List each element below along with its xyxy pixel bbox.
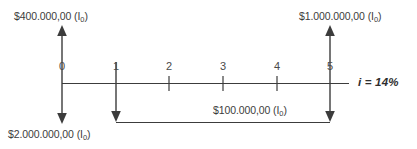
arrowhead-up-period-5 — [325, 25, 335, 36]
arrowhead-up-period-0 — [57, 25, 67, 36]
series-label-period-1-to-5: $100.000,00 (I0) — [213, 104, 287, 116]
cash-flow-diagram: 0 1 2 3 4 5 $400.000,00 (I0) $1.000.000,… — [0, 0, 417, 149]
inflow-label-period-5-amount: $1.000.000,00 — [299, 10, 365, 22]
arrowhead-down-period-0 — [57, 113, 67, 124]
inflow-label-period-5-subscript: 0 — [374, 15, 378, 24]
series-label-period-1-to-5-subscript: 0 — [279, 109, 283, 118]
outflow-label-period-0-subscript: 0 — [83, 133, 87, 142]
series-label-period-1-to-5-amount: $100.000,00 — [213, 104, 270, 116]
period-label-1: 1 — [113, 60, 119, 72]
arrowhead-down-period-1 — [111, 111, 121, 122]
arrowhead-down-period-5 — [325, 111, 335, 122]
flow-arrow-period-0 — [57, 25, 67, 124]
period-label-2: 2 — [166, 60, 172, 72]
inflow-label-period-0-subscript: 0 — [80, 15, 84, 24]
period-label-4: 4 — [274, 60, 280, 72]
inflow-label-period-5: $1.000.000,00 (I0) — [299, 10, 381, 22]
outflow-label-period-0-amount: $2.000.000,00 — [8, 128, 74, 140]
outflow-label-period-0: $2.000.000,00 (I0) — [8, 128, 90, 140]
cash-flow-timeline-graphic — [0, 0, 417, 149]
interest-rate-label: i = 14% — [358, 76, 399, 88]
flow-arrow-period-5 — [325, 25, 335, 122]
period-label-3: 3 — [220, 60, 226, 72]
inflow-label-period-0-amount: $400.000,00 — [14, 10, 71, 22]
period-label-0: 0 — [59, 60, 65, 72]
period-label-5: 5 — [327, 60, 333, 72]
inflow-label-period-0: $400.000,00 (I0) — [14, 10, 88, 22]
